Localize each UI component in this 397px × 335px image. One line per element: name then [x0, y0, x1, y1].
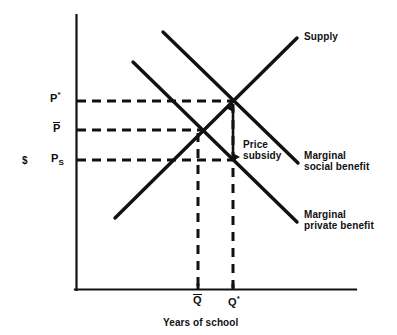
marginal-private-benefit-label: Marginalprivate benefit — [304, 209, 374, 231]
y-axis-label: $ — [22, 155, 28, 166]
quantity-label-q-star: Q* — [228, 296, 240, 308]
msb-line-1: Marginal — [304, 150, 346, 161]
q-bar-base: Q — [193, 294, 202, 307]
economics-diagram-figure: $ P* P PS Q Q* Years of school Supply Ma… — [0, 0, 397, 335]
supply-curve — [115, 38, 297, 218]
x-axis-label: Years of school — [163, 317, 238, 328]
p-bar-base: P — [53, 122, 60, 135]
msb-line-2: social benefit — [304, 161, 369, 172]
mpb-line-1: Marginal — [304, 209, 346, 220]
price-subsidy-label: Pricesubsidy — [243, 139, 282, 161]
mpb-line-2: private benefit — [304, 220, 374, 231]
marginal-social-benefit-label: Marginalsocial benefit — [304, 150, 369, 172]
p-s-script: S — [58, 158, 63, 167]
price-label-p-s: PS — [51, 152, 64, 164]
price-label-p-star: P* — [50, 92, 61, 104]
price-subsidy-line-1: Price — [243, 139, 268, 150]
supply-curve-label: Supply — [304, 31, 338, 42]
price-subsidy-line-2: subsidy — [243, 150, 282, 161]
price-label-p-bar: P — [53, 122, 60, 135]
p-star-script: * — [57, 90, 60, 99]
q-star-base: Q — [228, 296, 237, 308]
q-star-script: * — [237, 294, 240, 303]
quantity-label-q-bar: Q — [193, 294, 202, 307]
